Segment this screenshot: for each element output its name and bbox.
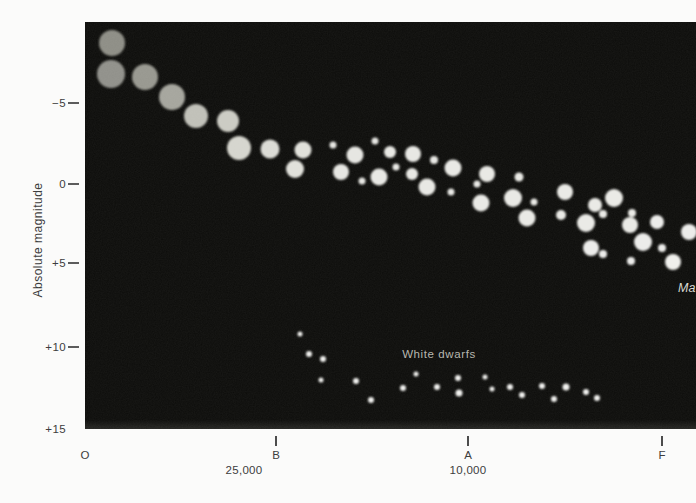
- star-field-chart: [85, 22, 696, 429]
- spectral-class-label-b: B: [272, 449, 280, 461]
- temperature-label: 25,000: [226, 464, 263, 476]
- y-tick-label: +15: [45, 423, 66, 435]
- y-tick-label: 0: [59, 178, 66, 190]
- spectral-class-label-f: F: [658, 449, 665, 461]
- film-grain-overlay: [85, 22, 696, 429]
- plot-area: White dwarfs Ma: [85, 22, 696, 429]
- y-tick-mark: [68, 262, 79, 264]
- y-tick-mark: [68, 183, 79, 185]
- x-tick-mark: [275, 436, 277, 446]
- spectral-class-label-o: O: [81, 449, 90, 461]
- spectral-class-label-a: A: [464, 449, 472, 461]
- white-dwarfs-annotation: White dwarfs: [402, 348, 476, 360]
- y-tick-label: +5: [52, 257, 66, 269]
- y-tick-mark: [68, 346, 79, 348]
- y-tick-label: −5: [52, 97, 66, 109]
- y-axis-title: Absolute magnitude: [31, 182, 45, 297]
- hr-diagram-figure: Absolute magnitude −50+5+10+15 White dwa…: [0, 0, 696, 503]
- temperature-label: 10,000: [450, 464, 487, 476]
- x-tick-mark: [467, 436, 469, 446]
- x-tick-mark: [661, 436, 663, 446]
- y-tick-label: +10: [45, 341, 66, 353]
- y-tick-mark: [68, 102, 79, 104]
- main-sequence-annotation: Ma: [678, 281, 695, 295]
